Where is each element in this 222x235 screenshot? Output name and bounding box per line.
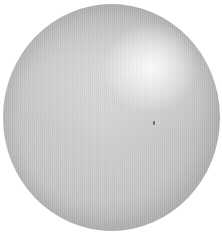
gray-sphere [3,4,220,231]
surface-speck [153,121,155,125]
